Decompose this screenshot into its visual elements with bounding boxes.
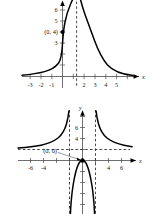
- top-x-axis: x: [22, 73, 145, 80]
- top-y-axis-arrow: [60, 1, 65, 7]
- top-x-tick-label: 3: [93, 81, 96, 88]
- top-y-tick-label: 6: [54, 6, 57, 13]
- bottom-x-axis-label: x: [138, 157, 142, 164]
- bottom-right-branch: [96, 111, 132, 147]
- bottom-y-axis-arrow: [80, 110, 85, 116]
- bottom-x-tick-label: 4: [107, 164, 110, 171]
- top-right-branch: [81, 0, 133, 76]
- bottom-y-axis-label: y: [78, 107, 82, 111]
- bottom-y-tick-label: 4: [75, 135, 78, 142]
- top-point-label: (0, 4): [44, 28, 58, 36]
- top-y-tick-label: 5: [54, 17, 57, 24]
- top-x-tick-labels: -3 -2 -1 2 3 4 5: [28, 81, 119, 88]
- bottom-y-tick-labels: 4 6: [75, 124, 78, 142]
- bottom-point-leader: [58, 153, 80, 160]
- top-point-marker: [61, 30, 65, 34]
- top-x-axis-label: x: [141, 73, 145, 80]
- top-x-tick-label: -2: [38, 81, 43, 88]
- bottom-x-tick-label: 6: [120, 164, 123, 171]
- bottom-graph-svg: x y -6 -4 4 6: [0, 107, 153, 214]
- top-x-tick-label: 2: [83, 81, 86, 88]
- top-x-tick-label: -1: [49, 81, 54, 88]
- top-y-tick-label: 3: [54, 39, 57, 46]
- bottom-y-tick-label: 6: [75, 124, 78, 131]
- top-x-tick-label: 4: [104, 81, 107, 88]
- bottom-point-marker: [80, 158, 84, 162]
- bottom-x-axis-arrow: [131, 158, 137, 163]
- bottom-x-tick-label: -6: [28, 164, 33, 171]
- bottom-x-tick-labels: -6 -4 4 6: [28, 164, 123, 171]
- top-x-axis-arrow: [134, 74, 140, 79]
- bottom-graph-panel: x y -6 -4 4 6: [0, 107, 153, 214]
- top-left-branch: [22, 0, 72, 75]
- top-graph-panel: x -3 -2 -1: [0, 0, 153, 107]
- top-x-tick-label: -3: [28, 81, 33, 88]
- figure-root: x -3 -2 -1: [0, 0, 153, 214]
- bottom-x-tick-label: -4: [41, 164, 46, 171]
- top-y-tick-labels: 3 5 6: [54, 6, 57, 46]
- bottom-point-label: (0, 0): [43, 147, 57, 155]
- bottom-point-leader-arrow: [77, 157, 82, 160]
- top-graph-svg: x -3 -2 -1: [0, 0, 153, 107]
- bottom-left-branch: [18, 111, 69, 148]
- top-x-tick-label: 5: [115, 81, 118, 88]
